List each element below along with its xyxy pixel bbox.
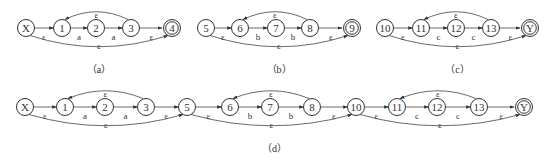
state-3: 3 [123, 20, 140, 37]
state-label: 11 [416, 22, 427, 34]
state-label: 8 [309, 101, 315, 113]
state-label: 10 [380, 22, 392, 34]
state-label: 1 [62, 101, 68, 113]
skip-edge-label: ε [456, 41, 460, 51]
state-label: 12 [432, 101, 443, 113]
state-7: 7 [262, 99, 279, 116]
state-label: Y [520, 101, 528, 113]
state-X: X [17, 99, 34, 116]
state-9: 9 [344, 20, 361, 37]
state-12: 12 [448, 20, 465, 37]
state-1: 1 [54, 20, 71, 37]
state-4: 4 [164, 20, 181, 37]
state-Y: Y [522, 20, 539, 37]
state-1: 1 [57, 99, 74, 116]
state-label: 9 [349, 22, 355, 34]
state-10: 10 [377, 20, 394, 37]
state-label: 5 [184, 101, 190, 113]
state-label: 8 [307, 22, 313, 34]
transition-label: b [256, 32, 261, 42]
transition-label: b [289, 111, 294, 121]
state-label: Y [526, 22, 534, 34]
state-2: 2 [97, 99, 114, 116]
state-label: 6 [237, 22, 243, 34]
caption-c: （c） [445, 64, 469, 75]
state-8: 8 [302, 20, 319, 37]
skip-edge-label: ε [277, 41, 281, 51]
transition-label: ε [375, 111, 379, 121]
transition-label: c [472, 32, 476, 42]
state-label: 10 [351, 101, 363, 113]
state-label: 3 [143, 101, 149, 113]
state-label: 1 [59, 22, 65, 34]
state-label: 7 [273, 22, 279, 34]
state-label: 5 [203, 22, 209, 34]
state-12: 12 [429, 99, 446, 116]
transition-label: ε [401, 32, 405, 42]
back-edge-label: ε [436, 89, 440, 99]
state-13: 13 [483, 20, 500, 37]
state-label: X [21, 101, 29, 113]
state-Y: Y [516, 99, 533, 116]
state-8: 8 [304, 99, 321, 116]
caption-d: （d） [262, 143, 287, 154]
state-6: 6 [232, 20, 249, 37]
state-2: 2 [88, 20, 105, 37]
state-label: 11 [392, 101, 403, 113]
state-X: X [18, 20, 35, 37]
state-label: 13 [486, 22, 498, 34]
transition-label: c [415, 111, 419, 121]
back-edge-label: ε [273, 10, 277, 20]
transition-label: b [291, 32, 296, 42]
transition-label: a [124, 111, 128, 121]
skip-edge-label: ε [104, 120, 108, 130]
state-5: 5 [179, 99, 196, 116]
skip-edge-label: ε [438, 120, 442, 130]
state-11: 11 [413, 20, 430, 37]
transition-label: ε [43, 111, 47, 121]
back-edge-label: ε [95, 10, 99, 20]
state-5: 5 [198, 20, 215, 37]
state-label: 2 [93, 22, 99, 34]
skip-edge-label: ε [270, 120, 274, 130]
caption-a: （a） [87, 64, 111, 75]
state-10: 10 [348, 99, 365, 116]
state-label: 13 [474, 101, 486, 113]
state-11: 11 [389, 99, 406, 116]
transition-label: a [83, 111, 87, 121]
back-edge-label: ε [104, 89, 108, 99]
state-label: 3 [128, 22, 134, 34]
nfa-diagram: εaaεεεεbbεεεεccεεεεaaεεbbεεccεεεεεεε X12… [0, 0, 550, 168]
state-7: 7 [268, 20, 285, 37]
caption-b: （b） [267, 64, 292, 75]
back-edge-label: ε [269, 89, 273, 99]
state-label: X [22, 22, 30, 34]
transition-label: c [456, 111, 460, 121]
state-label: 12 [451, 22, 462, 34]
transition-label: a [77, 32, 81, 42]
state-3: 3 [138, 99, 155, 116]
transition-label: c [437, 32, 441, 42]
state-13: 13 [471, 99, 488, 116]
transition-label: ε [221, 32, 225, 42]
transition-label: ε [42, 32, 46, 42]
skip-edge-label: ε [97, 41, 101, 51]
back-edge-label: ε [454, 10, 458, 20]
state-label: 6 [227, 101, 233, 113]
state-label: 7 [267, 101, 273, 113]
transition-label: b [248, 111, 253, 121]
transition-label: a [112, 32, 116, 42]
state-label: 2 [102, 101, 108, 113]
state-6: 6 [222, 99, 239, 116]
state-label: 4 [169, 22, 175, 34]
